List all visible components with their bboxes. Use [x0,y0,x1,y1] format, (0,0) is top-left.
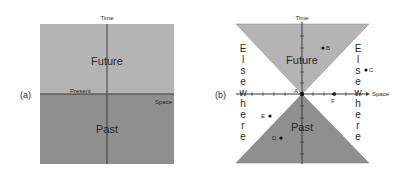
future-label: Future [91,55,123,67]
point-e: E [261,113,272,119]
svg-text:E: E [261,113,265,119]
svg-text:D: D [272,135,277,141]
svg-text:l: l [242,54,244,65]
svg-text:r: r [241,120,245,131]
svg-text:E: E [355,43,362,54]
svg-text:E: E [240,43,247,54]
svg-text:r: r [356,120,360,131]
svg-text:e: e [355,131,361,142]
svg-text:e: e [240,131,246,142]
elsewhere-right: E l s e w h e r e [353,43,362,142]
svg-text:w: w [353,87,362,98]
future-label: Future [286,54,318,66]
panel-a: (a) Time Space Future Past Present [20,15,174,164]
space-axis-label: Space [372,91,390,97]
space-arrow-icon [366,92,370,96]
svg-text:e: e [240,109,246,120]
panel-label-b: (b) [215,90,226,100]
past-label: Past [96,123,118,135]
space-axis-label: Space [155,99,173,105]
svg-text:e: e [355,76,361,87]
svg-text:e: e [240,76,246,87]
svg-text:e: e [355,109,361,120]
time-axis-label: Time [100,15,114,21]
svg-text:C: C [369,67,374,73]
svg-text:s: s [356,65,361,76]
time-axis-label: Time [295,15,309,21]
svg-text:A: A [294,88,298,94]
elsewhere-left: E l s e w h e r e [238,43,247,142]
svg-text:w: w [238,87,247,98]
panel-b: (b) Time Space Future Past E l s e w h e… [215,15,390,164]
svg-text:B: B [326,45,330,51]
point-c: C [364,67,374,73]
svg-text:F: F [331,98,335,104]
svg-text:l: l [357,54,359,65]
past-label: Past [291,121,313,133]
present-label: Present [70,88,91,94]
svg-text:s: s [241,65,246,76]
panel-label-a: (a) [20,90,31,100]
svg-text:h: h [240,98,246,109]
svg-text:h: h [355,98,361,109]
